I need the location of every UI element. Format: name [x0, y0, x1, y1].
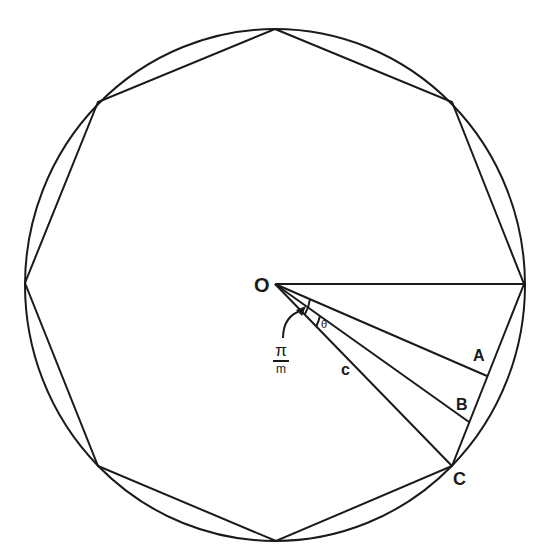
label-pi-over-m: π m [273, 342, 289, 375]
diagram-canvas: O A B C c θ π m [0, 0, 546, 557]
label-point-C: C [453, 470, 466, 488]
label-point-B: B [456, 397, 468, 413]
label-angle-theta: θ [321, 319, 327, 330]
angle-theta-arc [316, 316, 320, 327]
label-center-O: O [254, 275, 270, 295]
fraction-denominator: m [273, 362, 289, 375]
label-point-A: A [473, 348, 485, 364]
segment-OA [275, 284, 487, 376]
fraction-numerator: π [273, 342, 289, 362]
segment-OB [275, 284, 469, 422]
pi-over-m-pointer [283, 310, 303, 338]
label-segment-c: c [341, 362, 350, 378]
